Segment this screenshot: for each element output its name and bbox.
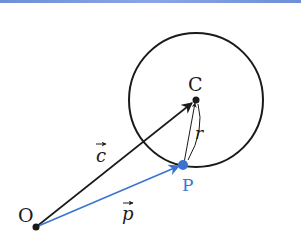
vector-p-line: [36, 166, 179, 227]
point-P: [178, 160, 188, 170]
label-O: O: [18, 204, 34, 226]
label-c: c: [96, 145, 106, 166]
label-P: P: [182, 175, 193, 195]
circle-vector-diagram: C O P r c p: [0, 0, 301, 245]
point-C: [193, 97, 200, 104]
label-C: C: [188, 73, 203, 95]
label-p: p: [122, 203, 134, 224]
label-r: r: [195, 123, 204, 143]
radius-line: [184, 103, 195, 163]
vector-c-line: [36, 103, 192, 227]
